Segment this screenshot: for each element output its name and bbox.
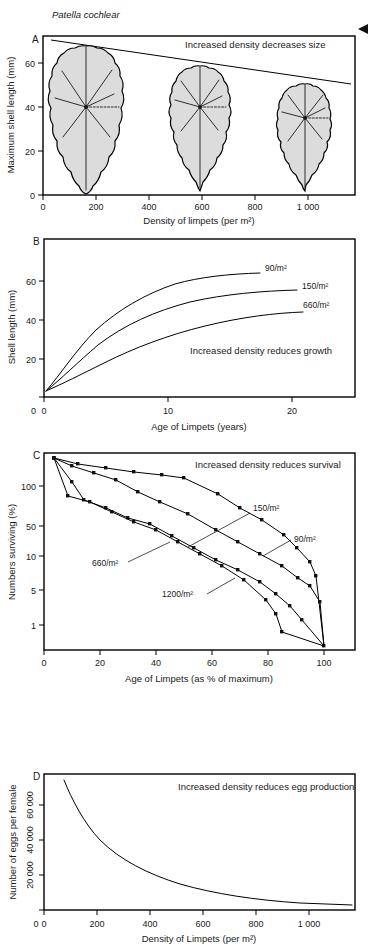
- panel-a-xtick-1000: 1 000: [297, 202, 320, 212]
- panel-a-xtick-200: 200: [88, 202, 103, 212]
- panel-d-ytick-0: 0: [33, 919, 38, 929]
- panel-c-curve-90: [54, 458, 324, 646]
- panel-b-growth: B 0 20 40 60 0 10 20 Age of Limpets (yea…: [0, 232, 370, 442]
- panel-d-ylabel: Number of eggs per female: [7, 784, 18, 899]
- panel-c-leader-90: [263, 540, 291, 556]
- panel-d-ytick-60000: 60 000: [25, 791, 35, 819]
- panel-c-annotation: Increased density reduces survival: [195, 459, 341, 470]
- panel-c-y-axis: 100 50 10 5 1: [21, 482, 44, 631]
- panel-c-xtick-40: 40: [151, 658, 161, 668]
- panel-c-curve-label-660: 660/m²: [92, 558, 119, 568]
- panel-c-curve-label-150: 150/m²: [253, 503, 280, 513]
- panel-a-letter: A: [32, 34, 39, 45]
- panel-b-ytick-40: 40: [26, 316, 36, 326]
- panel-b-y-axis: 0 20 40 60: [26, 277, 44, 416]
- panel-a-y-axis: 0 20 40 60: [25, 59, 43, 201]
- panel-b-curve-150: [46, 290, 297, 391]
- panel-c-xtick-20: 20: [95, 658, 105, 668]
- panel-c-xtick-0: 0: [41, 658, 46, 668]
- panel-d-frame: [44, 774, 355, 910]
- panel-c-xtick-80: 80: [263, 658, 273, 668]
- panel-d-xtick-600: 600: [195, 919, 210, 929]
- panel-c-survival: C 100 50 10 5 1 0 20 40 60 80 100: [0, 442, 370, 687]
- panel-b-curve-90: [46, 273, 260, 391]
- panel-d-xtick-1000: 1 000: [298, 919, 321, 929]
- panel-b-letter: B: [33, 236, 40, 247]
- panel-c-xtick-60: 60: [207, 658, 217, 668]
- panel-c-ytick-100: 100: [21, 482, 36, 492]
- panel-d-ytick-20000: 20 000: [25, 861, 35, 889]
- panel-d-letter: D: [33, 771, 40, 782]
- left-triangle-marker: [358, 24, 368, 34]
- panel-a-ytick-0: 0: [30, 191, 35, 201]
- panel-c-letter: C: [33, 450, 40, 461]
- panel-b-curve-label-150: 150/m²: [302, 281, 329, 291]
- panel-c-ytick-1: 1: [31, 621, 36, 631]
- panel-b-svg: B 0 20 40 60 0 10 20 Age of Limpets (yea…: [0, 232, 370, 442]
- panel-a-xtick-0: 0: [40, 202, 45, 212]
- panel-c-ytick-50: 50: [26, 522, 36, 532]
- panel-d-xtick-200: 200: [89, 919, 104, 929]
- panel-b-ytick-20: 20: [26, 355, 36, 365]
- panel-c-ytick-10: 10: [26, 552, 36, 562]
- panel-c-x-axis: 0 20 40 60 80 100: [41, 650, 331, 668]
- panel-a-ytick-60: 60: [25, 59, 35, 69]
- panel-b-ytick-0: 0: [31, 406, 36, 416]
- panel-c-xlabel: Age of Limpets (as % of maximum): [125, 673, 273, 684]
- panel-a-xtick-800: 800: [247, 202, 262, 212]
- panel-c-curve-1200: [54, 458, 324, 646]
- panel-b-ytick-60: 60: [26, 277, 36, 287]
- panel-d-ytick-40000: 40 000: [25, 826, 35, 854]
- panel-d-y-axis: 0 20 000 40 000 60 000: [25, 791, 44, 929]
- panel-d-annotation: Increased density reduces egg production: [178, 781, 354, 792]
- panel-b-x-axis: 0 10 20: [41, 397, 297, 416]
- limpet-shell-660: [169, 66, 231, 191]
- panel-a-ylabel: Maximum shell length (mm): [5, 57, 16, 174]
- panel-b-curve-label-660: 660/m²: [303, 300, 330, 310]
- panel-a-xlabel: Density of limpets (per m²): [143, 215, 254, 226]
- panel-c-curve-150: [54, 458, 324, 646]
- panel-b-annotation: Increased density reduces growth: [190, 345, 332, 356]
- panel-c-svg: C 100 50 10 5 1 0 20 40 60 80 100: [0, 442, 370, 687]
- panel-d-x-axis: 0 200 400 600 800 1 000: [41, 910, 320, 929]
- panel-d-curve-eggs: [64, 780, 352, 905]
- panel-b-xtick-0: 0: [41, 406, 46, 416]
- panel-c-xtick-100: 100: [316, 658, 331, 668]
- panel-d-xtick-0: 0: [41, 919, 46, 929]
- panel-b-xtick-20: 20: [287, 406, 297, 416]
- panel-c-leader-660: [128, 542, 170, 562]
- panel-d-xtick-400: 400: [142, 919, 157, 929]
- panel-b-frame: [44, 239, 355, 397]
- panel-d-xlabel: Density of Limpets (per m²): [142, 933, 257, 944]
- panel-c-curve-label-1200: 1200/m²: [162, 589, 193, 599]
- panel-c-points-1200: [52, 456, 283, 633]
- panel-a-x-axis: 0 200 400 600 800 1 000: [40, 195, 319, 212]
- species-title: Patella cochlear: [52, 9, 120, 20]
- panel-c-curve-label-90: 90/m²: [294, 534, 316, 544]
- panel-a-ytick-20: 20: [25, 147, 35, 157]
- panel-d-xtick-800: 800: [248, 919, 263, 929]
- panel-d-svg: D 0 20 000 40 000 60 000 0 200 400 600 8…: [0, 768, 370, 951]
- panel-a-shell-size: Patella cochlear A 0 20 40 60 0 200: [0, 0, 370, 230]
- limpet-shell-1040: [277, 84, 332, 191]
- panel-b-ylabel: Shell length (mm): [6, 290, 17, 364]
- panel-a-ytick-40: 40: [25, 103, 35, 113]
- panel-a-xtick-600: 600: [194, 202, 209, 212]
- panel-c-leader-150: [188, 513, 250, 547]
- panel-b-xtick-10: 10: [163, 406, 173, 416]
- panel-c-leader-1200: [207, 578, 235, 594]
- panel-c-ytick-5: 5: [31, 586, 36, 596]
- panel-b-curve-label-90: 90/m²: [265, 263, 287, 273]
- panel-c-points-90: [52, 456, 325, 647]
- panel-d-egg-production: D 0 20 000 40 000 60 000 0 200 400 600 8…: [0, 768, 370, 951]
- panel-b-xlabel: Age of Limpets (years): [151, 421, 247, 432]
- panel-a-xtick-400: 400: [141, 202, 156, 212]
- panel-a-annotation: Increased density decreases size: [185, 39, 325, 50]
- panel-c-ylabel: Numbers surviving (%): [6, 504, 17, 600]
- panel-c-points-150: [52, 456, 321, 603]
- panel-c-curve-660: [54, 458, 324, 646]
- limpet-shell-200: [48, 46, 124, 194]
- panel-a-svg: Patella cochlear A 0 20 40 60 0 200: [0, 0, 370, 230]
